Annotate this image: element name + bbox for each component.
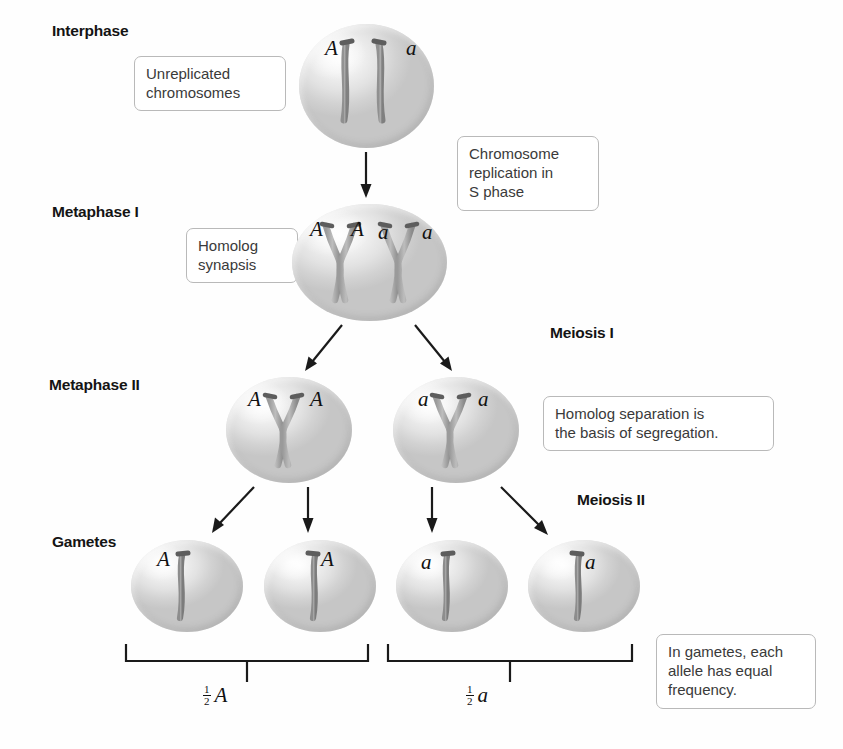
bracket-gametes-a: [386, 634, 638, 684]
stage-label-metaphase-ii: Metaphase II: [49, 376, 140, 394]
fraction-label-A: 1 2 A: [203, 683, 227, 708]
gamete-3-chromosome: [396, 540, 508, 632]
allele-metaphase-i-A2: A: [351, 219, 364, 240]
fraction-allele-a: a: [478, 683, 489, 708]
arrow-meiosis-ii-3: [420, 484, 448, 542]
allele-gamete-3: a: [421, 552, 432, 573]
callout-homolog-separation: Homolog separation is the basis of segre…: [543, 396, 774, 451]
allele-interphase-a: a: [406, 38, 417, 59]
meiosis-segregation-diagram: Interphase Metaphase I Metaphase II Game…: [0, 0, 843, 749]
arrow-meiosis-ii-4: [484, 484, 574, 542]
metaphase-ii-chromosome-right: [393, 377, 519, 483]
callout-chromosome-replication: Chromosome replication in S phase: [457, 136, 599, 211]
bracket-gametes-A: [124, 634, 374, 684]
allele-interphase-A: A: [325, 38, 338, 59]
allele-gamete-1: A: [157, 549, 170, 570]
allele-metaphase-i-a1: a: [378, 222, 389, 243]
allele-gamete-4: a: [585, 552, 596, 573]
gamete-2-chromosome: [264, 540, 376, 632]
stage-label-interphase: Interphase: [52, 22, 128, 40]
callout-homolog-synapsis: Homolog synapsis: [186, 228, 298, 283]
fraction-allele-A: A: [215, 683, 228, 708]
fraction-one-half-a: 1 2: [466, 684, 474, 707]
arrow-meiosis-i-right: [398, 322, 478, 378]
stage-label-metaphase-i: Metaphase I: [52, 203, 139, 221]
gamete-4-chromosome: [528, 540, 640, 632]
allele-metaphase-i-a2: a: [422, 222, 433, 243]
allele-metaphase-ii-left-2: A: [310, 389, 323, 410]
arrow-meiosis-ii-1: [190, 484, 270, 542]
arrow-meiosis-i-left: [290, 322, 370, 378]
callout-unreplicated-chromosomes: Unreplicated chromosomes: [134, 56, 286, 111]
fraction-label-a: 1 2 a: [466, 683, 488, 708]
meiosis-label-i: Meiosis I: [550, 324, 614, 342]
allele-gamete-2: A: [321, 549, 334, 570]
allele-metaphase-ii-right-1: a: [418, 389, 429, 410]
callout-equal-frequency: In gametes, each allele has equal freque…: [656, 634, 816, 709]
gamete-1-chromosome: [131, 540, 243, 632]
allele-metaphase-i-A1: A: [310, 219, 323, 240]
stage-label-gametes: Gametes: [52, 533, 116, 551]
allele-metaphase-ii-left-1: A: [248, 389, 261, 410]
arrow-interphase-to-metaphase-i: [355, 150, 379, 202]
meiosis-label-ii: Meiosis II: [577, 491, 645, 509]
fraction-one-half-A: 1 2: [203, 684, 211, 707]
arrow-meiosis-ii-2: [296, 484, 324, 542]
metaphase-ii-chromosome-left: [226, 377, 352, 483]
allele-metaphase-ii-right-2: a: [478, 389, 489, 410]
